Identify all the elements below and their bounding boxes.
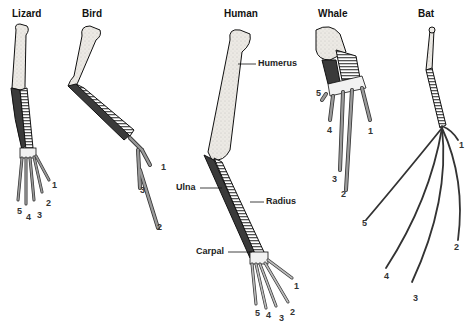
whale-limb	[316, 27, 370, 190]
lizard-digit-5: 5	[17, 206, 22, 216]
title-bird: Bird	[82, 8, 102, 19]
label-humerus: Humerus	[258, 58, 297, 68]
bat-digit-4: 4	[384, 271, 389, 281]
bat-digit-3: 3	[413, 293, 418, 303]
bird-digit-2: 2	[157, 222, 162, 232]
title-whale: Whale	[318, 8, 347, 19]
bat-digit-1: 1	[459, 140, 464, 150]
bat-limb	[366, 27, 460, 282]
title-bat: Bat	[418, 8, 434, 19]
whale-digit-3: 3	[332, 174, 337, 184]
whale-digit-1: 1	[368, 126, 373, 136]
bird-digit-1: 1	[161, 162, 166, 172]
homology-diagram	[0, 0, 470, 328]
lizard-digit-1: 1	[52, 180, 57, 190]
bat-digit-2: 2	[454, 242, 459, 252]
lizard-limb	[11, 24, 49, 204]
bird-digit-3: 3	[140, 185, 145, 195]
human-digit-2: 2	[290, 307, 295, 317]
title-human: Human	[224, 8, 258, 19]
label-radius: Radius	[266, 196, 296, 206]
human-digit-4: 4	[266, 310, 271, 320]
human-digit-5: 5	[255, 308, 260, 318]
bat-digit-5: 5	[362, 218, 367, 228]
lizard-digit-4: 4	[26, 212, 31, 222]
human-limb	[200, 30, 292, 308]
lizard-digit-2: 2	[46, 198, 51, 208]
label-ulna: Ulna	[176, 182, 196, 192]
human-digit-3: 3	[279, 313, 284, 323]
lizard-digit-3: 3	[37, 210, 42, 220]
label-carpal: Carpal	[196, 246, 224, 256]
whale-digit-4: 4	[327, 125, 332, 135]
bird-limb	[68, 26, 158, 228]
title-lizard: Lizard	[12, 8, 41, 19]
human-digit-1: 1	[294, 281, 299, 291]
whale-digit-2: 2	[341, 189, 346, 199]
whale-digit-5: 5	[316, 88, 321, 98]
